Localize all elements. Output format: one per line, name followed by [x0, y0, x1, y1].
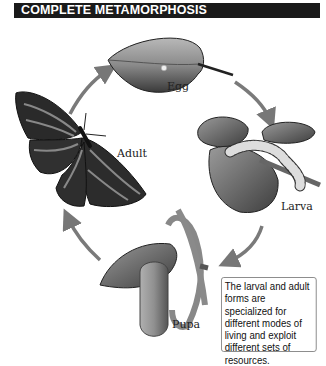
larva-illustration: [198, 117, 320, 213]
egg: [161, 65, 167, 71]
annotation-box: The larval and adult forms are specializ…: [221, 277, 317, 352]
arrow-larva-to-pupa: [228, 226, 262, 262]
arrow-egg-to-larva: [235, 82, 270, 120]
chrysalis: [140, 262, 168, 336]
stage-label-adult: Adult: [117, 147, 147, 160]
stage-label-egg: Egg: [167, 80, 189, 93]
stage-label-pupa: Pupa: [172, 318, 200, 331]
arrow-adult-to-egg: [70, 70, 108, 114]
stage-label-larva: Larva: [281, 200, 313, 213]
arrow-pupa-to-adult: [68, 218, 100, 260]
